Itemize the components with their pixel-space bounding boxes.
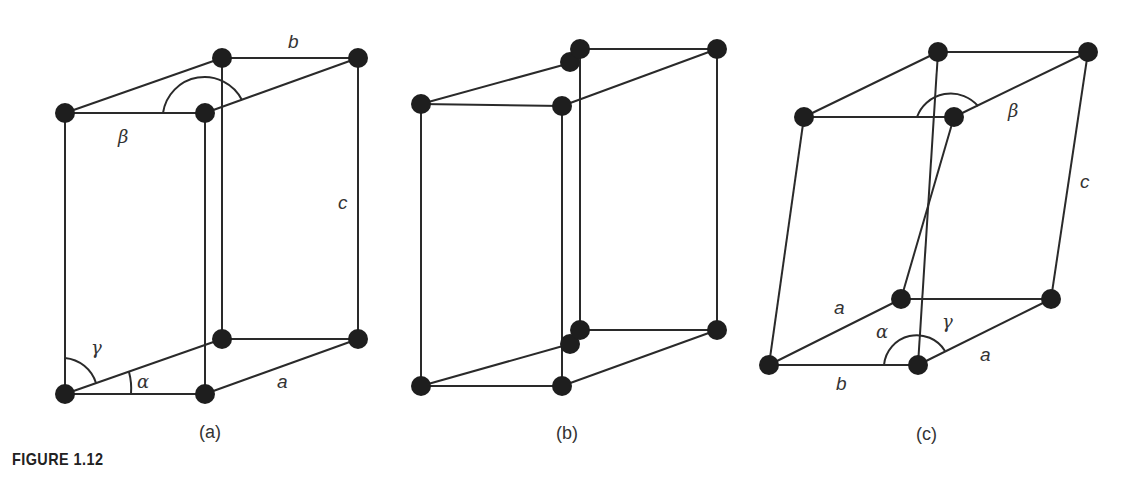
gamma-angle-arc <box>65 358 96 383</box>
label-gamma: γ <box>91 337 102 358</box>
panel-a-unit-cell: b c a β γ α (a) <box>55 31 368 442</box>
panel-c-unit-cell: β c a a b α γ (c) <box>759 42 1098 444</box>
caption-c: (c) <box>916 424 937 444</box>
label-a-right: a <box>980 344 991 365</box>
label-alpha: α <box>876 321 888 342</box>
label-gamma: γ <box>942 311 953 332</box>
alpha-angle-arc <box>129 372 131 394</box>
lattice-diagram: b c a β γ α (a) (b) <box>0 0 1146 484</box>
label-b: b <box>288 31 299 52</box>
label-beta: β <box>1007 100 1018 121</box>
label-b: b <box>836 373 847 394</box>
label-c: c <box>338 192 348 213</box>
caption-a: (a) <box>199 422 221 442</box>
label-a: a <box>277 371 288 392</box>
label-c: c <box>1080 171 1090 192</box>
label-alpha: α <box>137 371 149 392</box>
label-a-left: a <box>834 297 845 318</box>
label-beta: β <box>117 126 128 147</box>
caption-b: (b) <box>556 423 578 443</box>
panel-b-unit-cell: (b) <box>411 39 727 443</box>
figure-label: FIGURE 1.12 <box>12 450 103 470</box>
